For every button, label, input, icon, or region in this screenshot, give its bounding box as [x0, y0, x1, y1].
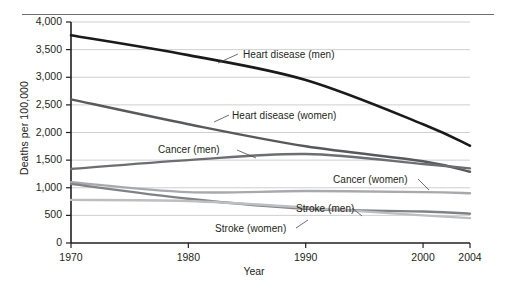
annotation-leader-lines-group — [214, 54, 429, 228]
series-annotation-label: Heart disease (men) — [243, 49, 335, 60]
y-tick-label: 2,000 — [8, 126, 62, 138]
x-tick-label: 1990 — [276, 251, 336, 263]
annotation-leader-line — [418, 179, 429, 190]
y-tick-label: 0 — [8, 236, 62, 248]
x-axis-title: Year — [0, 265, 508, 277]
series-annotation-label: Stroke (women) — [215, 223, 286, 234]
series-annotation-label: Cancer (men) — [158, 144, 220, 155]
annotation-leader-line — [214, 115, 229, 122]
y-tick-label: 3,000 — [8, 70, 62, 82]
series-line — [71, 154, 470, 169]
series-annotation-label: Heart disease (women) — [232, 110, 336, 121]
annotation-leader-line — [296, 220, 308, 228]
y-tick-label: 500 — [8, 208, 62, 220]
series-lines-group — [71, 35, 470, 218]
y-axis-title: Deaths per 100,000 — [18, 58, 30, 198]
x-tick-label: 1980 — [158, 251, 218, 263]
y-tick-label: 4,000 — [8, 15, 62, 27]
chart-figure: 05001,0001,5002,0002,5003,0003,5004,000 … — [0, 0, 508, 292]
y-tick-label: 1,000 — [8, 181, 62, 193]
y-tick-label: 2,500 — [8, 98, 62, 110]
series-annotation-label: Stroke (men) — [296, 203, 354, 214]
x-tick-label: 2004 — [440, 251, 500, 263]
x-tick-label: 1970 — [41, 251, 101, 263]
series-annotation-label: Cancer (women) — [333, 174, 408, 185]
line-chart-plot — [0, 0, 508, 292]
y-tick-label: 1,500 — [8, 153, 62, 165]
y-tick-label: 3,500 — [8, 43, 62, 55]
